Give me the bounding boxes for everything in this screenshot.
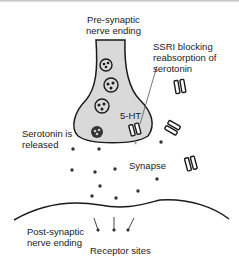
transporter-icon — [164, 120, 180, 135]
label-synapse: Synapse — [129, 160, 166, 171]
label-ssri: SSRI blocking reabsorption of serotonin — [153, 41, 216, 74]
label-5ht: 5-HT — [120, 110, 141, 121]
postsynaptic-membrane — [14, 200, 229, 220]
receptor-icon — [94, 217, 134, 231]
releasing-vesicle-icon — [91, 126, 103, 138]
label-serotonin-released: Serotonin is released — [22, 128, 72, 150]
label-receptor-sites: Receptor sites — [90, 245, 151, 256]
label-presynaptic: Pre-synaptic nerve ending — [86, 14, 141, 36]
transporter-icon — [184, 156, 197, 171]
transporter-icon — [174, 79, 186, 94]
label-postsynaptic: Post-synaptic nerve ending — [27, 226, 84, 248]
svg-text:×: × — [134, 140, 137, 146]
